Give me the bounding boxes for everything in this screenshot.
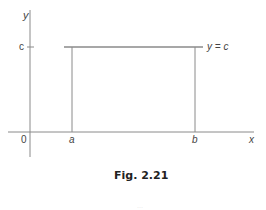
page-mark: ··· <box>137 204 143 210</box>
line-label-y-equals-c: y = c <box>207 42 228 52</box>
x-axis-label: x <box>249 135 254 145</box>
origin-label: 0 <box>21 135 27 145</box>
figure-2-21: y c y = c 0 a b x Fig. 2.21 ··· <box>0 0 266 210</box>
figure-caption: Fig. 2.21 <box>114 170 168 181</box>
x-tick-label-a: a <box>69 135 75 145</box>
y-tick-label-c: c <box>19 42 24 52</box>
y-axis-label: y <box>23 10 29 21</box>
x-tick-label-b: b <box>192 135 198 145</box>
